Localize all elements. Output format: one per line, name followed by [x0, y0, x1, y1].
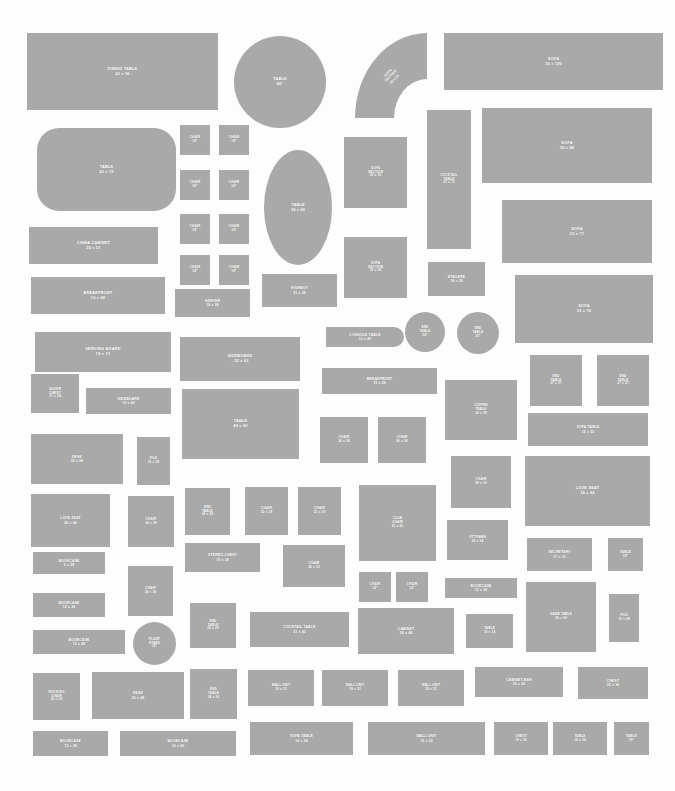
furniture-piece-end-table[interactable]: END TABLE 25 x 25 [190, 603, 236, 648]
furniture-piece-sideboard[interactable]: SIDEBOARD - 22 x 62 [180, 337, 300, 381]
furniture-piece-serving-board[interactable]: SERVING BOARD 18 x 73 [35, 332, 171, 372]
furniture-piece-chair[interactable]: CHAIR 18" [180, 255, 210, 285]
furniture-piece-chair[interactable]: CHAIR 14" [359, 572, 391, 602]
piece-label: WALL UNIT 16 x 52 [416, 734, 436, 743]
furniture-piece-end-table[interactable]: END TABLE 25" [457, 312, 499, 354]
furniture-piece-chair[interactable]: CHAIR 18" [180, 214, 210, 244]
furniture-piece-breakfront[interactable]: BREAKFRONT 19 x 68 [31, 277, 165, 314]
furniture-piece-table[interactable]: TABLE 42 x 72 [37, 128, 176, 211]
piece-label: DINING TABLE 42 x 96 [108, 67, 138, 77]
furniture-piece-sofa[interactable]: SOFA 30 x 100 [444, 33, 663, 90]
piece-label: TABLE 18 x 24 [484, 627, 496, 635]
piece-label: END TABLE 24 x 28 [202, 506, 214, 518]
furniture-piece-stereo-chest[interactable]: STEREO-CHEST 19 x 38 [185, 543, 260, 572]
furniture-piece-chair[interactable]: CHAIR 28 x 33 [451, 456, 511, 508]
furniture-piece-end-table[interactable]: END TABLE 24 x 26 [190, 669, 237, 719]
furniture-piece-sofa[interactable]: SOFA 33 x 77 [502, 200, 652, 263]
furniture-piece-chair[interactable]: CHAIR 26 x 28 [378, 417, 426, 463]
furniture-piece-game-table[interactable]: GAME TABLE 36 x 36 [526, 582, 596, 652]
furniture-piece-desk[interactable]: DESK 33 x 66 [31, 434, 123, 484]
furniture-piece-sideboard[interactable]: SIDEBOARD 19 x 43 [86, 388, 171, 414]
furniture-piece-wall-unit[interactable]: WALL UNIT 19 x 32 [248, 670, 314, 706]
furniture-piece-end-table[interactable]: END TABLE 24" [405, 312, 445, 352]
piece-label: GAME TABLE 36 x 36 [550, 613, 572, 621]
furniture-piece-bookcase[interactable]: BOOKCASE 12 x 36 [445, 578, 517, 598]
furniture-piece-sofa-section[interactable]: SOFA SECTION 33 x 36 [344, 237, 407, 298]
furniture-piece-sofa-table[interactable]: SOFA TABLE 16 x 54 [250, 722, 353, 755]
piece-label: PLANT STAND 18" [149, 638, 160, 650]
furniture-piece-coffee-table[interactable]: COFFEE TABLE 20 x 39 [445, 380, 517, 440]
furniture-piece-chair[interactable]: CHAIR 18" [219, 125, 249, 155]
furniture-piece-wall-unit[interactable]: WALL UNIT 16 x 52 [368, 722, 485, 755]
furniture-piece-sofa[interactable]: SOFA 38 x 88 [482, 108, 652, 183]
furniture-piece-chair[interactable]: CHAIR 18" [180, 170, 210, 200]
furniture-piece-sofa-table[interactable]: SOFA TABLE 16 x 52 [528, 413, 648, 446]
furniture-piece-club-chair[interactable]: CLUB CHAIR 41 x 41 [359, 485, 436, 561]
furniture-piece-cabinet-bar[interactable]: CABINET-BAR 20 x 40 [475, 667, 563, 697]
piece-label: END TABLE 27 x 27 [550, 375, 562, 387]
furniture-piece-console-table[interactable]: CONSOLE TABLE 13 x 42 [326, 327, 404, 347]
furniture-piece-love-seat[interactable]: LOVE SEAT 36 x 64 [525, 456, 650, 526]
furniture-piece-bookcase[interactable]: BOOKCASE 9 x 28 [33, 552, 105, 574]
piece-label: SERVING BOARD 18 x 73 [85, 347, 120, 357]
furniture-piece-desk[interactable]: DESK 25 x 48 [92, 672, 184, 719]
furniture-piece-table[interactable]: TABLE 48 x 60 [182, 389, 299, 459]
furniture-piece-ottoman[interactable]: OTTOMAN 22 x 34 [447, 520, 508, 560]
furniture-piece-bookcase[interactable]: BOOKCASE 12 x 48 [33, 630, 125, 654]
furniture-piece-file[interactable]: FILE 15 x 28 [609, 594, 639, 642]
furniture-piece-rocking-chair[interactable]: ROCKING CHAIR 20 x 25 [33, 673, 80, 720]
furniture-piece-sofa-section-corner[interactable]: SOFA SECTION 33 x 33 [355, 33, 427, 118]
furniture-piece-sofa-section[interactable]: SOFA SECTION 33 x 36 [344, 137, 407, 208]
furniture-piece-table[interactable]: TABLE 38 x 60 [264, 150, 332, 265]
furniture-piece-chair[interactable]: CHAIR 26 x 33 [283, 545, 345, 587]
furniture-piece-dining-table[interactable]: DINING TABLE 42 x 96 [27, 33, 218, 110]
furniture-piece-chair[interactable]: CHAIR 24 x 36 [128, 566, 173, 616]
furniture-piece-chair[interactable]: CHAIR 18" [219, 255, 249, 285]
furniture-piece-chair[interactable]: CHAIR 26 x 28 [320, 417, 368, 463]
furniture-piece-table[interactable]: TABLE 18 x 24 [466, 614, 513, 648]
furniture-piece-silver-chest[interactable]: SILVER CHEST 17 x 24 [31, 374, 79, 413]
furniture-piece-end-table[interactable]: END TABLE 27 x 27 [597, 355, 649, 406]
furniture-piece-server[interactable]: SERVER 18 x 58 [175, 289, 250, 317]
furniture-piece-highboy[interactable]: HIGHBOY 21 x 38 [262, 274, 337, 307]
piece-label: SERVER 18 x 58 [205, 299, 220, 308]
furniture-piece-secretary[interactable]: SECRETARY 17 x 33 [527, 538, 592, 571]
furniture-piece-end-table[interactable]: END TABLE 27 x 27 [530, 355, 582, 406]
furniture-piece-sofa[interactable]: SOFA 32 x 70 [515, 275, 653, 343]
furniture-piece-chair[interactable]: CHAIR 18" [219, 214, 249, 244]
furniture-piece-chest[interactable]: CHEST 18 x 36 [578, 667, 648, 699]
furniture-piece-cocktail-table[interactable]: COCKTAIL TABLE 21 x 40 [250, 612, 349, 647]
furniture-piece-love-seat[interactable]: LOVE SEAT 25 x 44 [31, 494, 110, 547]
furniture-piece-chair[interactable]: CHAIR 22 x 29 [245, 487, 288, 535]
piece-label: SIDEBOARD 19 x 43 [117, 397, 139, 406]
piece-label: END TABLE 27 x 27 [617, 375, 629, 387]
furniture-piece-file[interactable]: FILE 15 x 28 [137, 437, 170, 485]
furniture-piece-wall-unit[interactable]: WALL UNIT 19 x 32 [398, 670, 464, 706]
furniture-piece-bookcase[interactable]: BOOKCASE 13 x 60 [120, 731, 236, 756]
piece-label: END TABLE 25 x 25 [207, 620, 219, 632]
furniture-piece-chair[interactable]: CHAIR 18" [180, 125, 210, 155]
furniture-piece-etagere[interactable]: ETAGERE 18 x 39 [428, 262, 485, 296]
furniture-piece-chair[interactable]: CHAIR 14" [396, 572, 428, 602]
furniture-piece-bookcase[interactable]: BOOKCASE 12 x 36 [33, 593, 105, 617]
furniture-piece-bookcase[interactable]: BOOKCASE 12 x 38 [33, 731, 108, 756]
furniture-piece-china-cabinet[interactable]: CHINA CABINET 20 x 57 [29, 227, 158, 264]
furniture-piece-breakfront[interactable]: BREAKFRONT 19 x 58 [322, 368, 437, 394]
furniture-piece-cabinet[interactable]: CABINET 24 x 48 [358, 608, 454, 654]
furniture-piece-table[interactable]: TABLE 18" [614, 722, 649, 755]
furniture-piece-end-table[interactable]: END TABLE 24 x 28 [185, 488, 230, 535]
furniture-piece-table[interactable]: TABLE 48" [234, 36, 326, 128]
furniture-piece-chair[interactable]: CHAIR 18" [219, 170, 249, 200]
piece-label: OTTOMAN 22 x 34 [469, 536, 486, 544]
furniture-piece-cocktail-table[interactable]: COCKTAIL TABLE 22 x 73 [427, 110, 471, 249]
piece-label: SOFA TABLE 16 x 52 [576, 425, 599, 434]
furniture-piece-plant-stand[interactable]: PLANT STAND 18" [133, 622, 176, 665]
furniture-piece-table[interactable]: TABLE 18" [608, 538, 643, 571]
piece-label: SOFA SECTION 33 x 36 [368, 167, 383, 179]
piece-label: WALL UNIT 19 x 32 [272, 684, 291, 692]
furniture-piece-table[interactable]: TABLE 18 x 24 [553, 722, 607, 755]
furniture-piece-chest[interactable]: CHEST 18 x 36 [494, 722, 548, 755]
furniture-piece-chair[interactable]: CHAIR 24 x 28 [128, 496, 174, 547]
furniture-piece-wall-unit[interactable]: WALL UNIT 19 x 32 [322, 670, 388, 706]
furniture-piece-chair[interactable]: CHAIR 22 x 29 [298, 487, 341, 535]
